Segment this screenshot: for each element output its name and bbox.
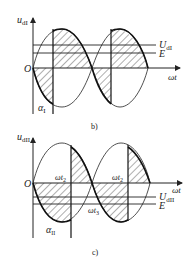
origin-label-c: O — [24, 178, 31, 189]
rectifier-waveform-diagram: udI O ωt UdI E αI b) udII O ωt — [0, 0, 194, 268]
omega-t2-label-1: ωt2 — [55, 173, 66, 183]
y-axis-label-b: udI — [17, 14, 29, 27]
caption-c: c) — [92, 248, 99, 257]
omega-t3-label: ωt3 — [88, 206, 99, 216]
x-axis-label-b: ωt — [168, 72, 177, 82]
origin-label-b: O — [24, 63, 31, 74]
figure-c: udII O ωt UdII E ωt2 ωt2 ωt3 αII c) — [17, 131, 182, 257]
E-label-c: E — [158, 200, 165, 211]
E-label-b: E — [158, 48, 165, 59]
alpha-label-c: αII — [46, 224, 55, 236]
omega-t2-label-2: ωt2 — [112, 173, 123, 183]
alpha-label-b: αI — [38, 102, 46, 115]
figure-b: udI O ωt UdI E αI b) — [17, 14, 180, 131]
caption-b: b) — [91, 122, 98, 131]
x-axis-label-c: ωt — [172, 185, 181, 195]
y-axis-label-c: udII — [17, 131, 31, 144]
